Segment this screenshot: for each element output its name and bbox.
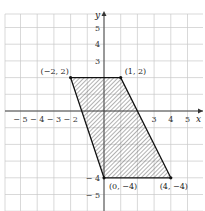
x-tick-label: 3 — [152, 115, 157, 124]
vertex-point — [119, 76, 122, 79]
x-tick-label: − 2 — [63, 115, 77, 124]
vertex-point — [169, 176, 172, 179]
x-tick-label: 4 — [168, 115, 173, 124]
vertex-label: (0, −4) — [109, 182, 137, 191]
y-tick-label: 4 — [95, 40, 100, 49]
y-axis-label: y — [94, 10, 101, 20]
y-tick-label: 5 — [95, 24, 100, 33]
x-tick-label: − 4 — [30, 115, 44, 124]
y-tick-label: − 4 — [86, 174, 100, 183]
coordinate-plane: − 5− 4− 3− 2345543− 4− 5xy(−2, 2)(1, 2)(… — [0, 0, 205, 211]
vertex-label: (1, 2) — [125, 67, 147, 76]
vertex-point — [102, 176, 105, 179]
y-tick-label: 3 — [95, 57, 100, 66]
x-tick-label: − 5 — [13, 115, 27, 124]
vertex-label: (4, −4) — [160, 182, 188, 191]
vertex-label: (−2, 2) — [41, 67, 69, 76]
x-tick-label: 5 — [185, 115, 190, 124]
y-axis-arrow-icon — [102, 11, 107, 16]
x-tick-label: − 3 — [47, 115, 61, 124]
x-axis-label: x — [196, 114, 201, 124]
y-tick-label: − 5 — [86, 191, 100, 200]
x-axis-arrow-icon — [198, 109, 203, 114]
vertex-point — [69, 76, 72, 79]
